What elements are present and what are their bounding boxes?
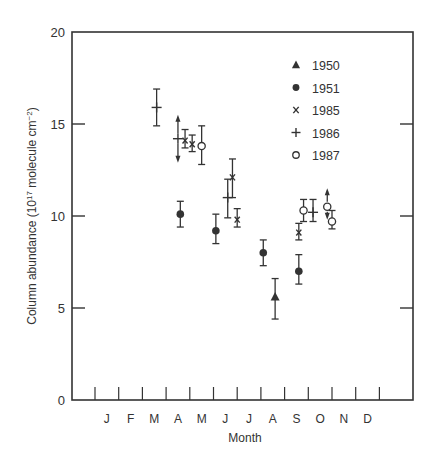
y-tick-label: 10 (51, 209, 65, 224)
legend-item-1951: 1951 (293, 82, 340, 96)
plot-border (72, 32, 413, 400)
arrow-up-icon (325, 188, 330, 195)
data-point (271, 279, 280, 319)
legend-label: 1950 (312, 59, 340, 73)
data-point (212, 214, 220, 243)
data-point (295, 223, 302, 240)
data-point (189, 135, 196, 152)
data-point (308, 199, 318, 221)
triangle-marker-icon (292, 61, 300, 69)
series-1950 (271, 279, 280, 319)
data-point (324, 188, 331, 220)
x-axis-label: Month (228, 431, 261, 445)
y-tick-label: 20 (51, 25, 65, 40)
x-tick-label: J (246, 412, 252, 426)
open-circle-marker-icon (293, 152, 299, 158)
filled-circle-marker-icon (212, 227, 220, 235)
data-point (300, 199, 307, 221)
y-tick-label: 0 (58, 393, 65, 408)
legend-label: 1987 (312, 149, 340, 163)
legend-item-1986: 1986 (292, 127, 340, 141)
data-point (177, 201, 185, 227)
series-1951 (177, 201, 303, 284)
open-circle-marker-icon (324, 203, 331, 210)
legend-label: 1985 (312, 104, 340, 118)
filled-circle-marker-icon (295, 267, 303, 275)
x-tick-label: N (340, 412, 349, 426)
plot-frame (72, 32, 413, 400)
x-tick-label: J (104, 412, 110, 426)
y-axis-label: Column abundance (1017 molecule cm−2) (25, 107, 40, 324)
y-axis: 05101520 (51, 25, 413, 408)
x-tick-label: A (174, 412, 182, 426)
filled-circle-marker-icon (177, 210, 185, 218)
x-tick-label: A (269, 412, 277, 426)
y-tick-label: 5 (58, 301, 65, 316)
open-circle-marker-icon (300, 207, 307, 214)
legend-item-1985: 1985 (293, 104, 340, 118)
legend-label: 1986 (312, 127, 340, 141)
chart: 05101520 JFMAMJJASOND 195019511985198619… (0, 0, 434, 459)
data-point (198, 126, 205, 165)
x-axis: JFMAMJJASOND (95, 387, 379, 426)
triangle-marker-icon (271, 292, 280, 301)
x-tick-label: F (127, 412, 134, 426)
filled-circle-marker-icon (259, 249, 267, 257)
arrow-down-icon (175, 156, 180, 163)
x-tick-label: O (315, 412, 324, 426)
data-point (223, 179, 233, 218)
data-point (173, 115, 183, 163)
data-points (152, 89, 336, 319)
x-tick-label: M (149, 412, 159, 426)
legend-item-1987: 1987 (293, 149, 340, 163)
open-circle-marker-icon (328, 218, 335, 225)
series-1987 (198, 126, 336, 229)
data-point (295, 255, 303, 284)
x-tick-label: S (292, 412, 300, 426)
legend: 19501951198519861987 (292, 59, 340, 163)
data-point (259, 240, 267, 266)
data-point (234, 209, 241, 227)
y-tick-label: 15 (51, 117, 65, 132)
x-tick-label: M (197, 412, 207, 426)
data-point (229, 159, 236, 198)
data-point (152, 89, 162, 126)
open-circle-marker-icon (198, 142, 205, 149)
x-tick-label: D (363, 412, 372, 426)
filled-circle-marker-icon (293, 84, 300, 91)
legend-item-1950: 1950 (292, 59, 340, 73)
x-tick-label: J (222, 412, 228, 426)
legend-label: 1951 (312, 82, 340, 96)
arrow-up-icon (175, 115, 180, 122)
